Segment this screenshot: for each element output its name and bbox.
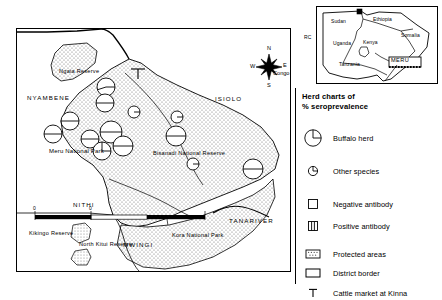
inset-top-marker [357, 9, 362, 14]
buffalo-herd-pie-icon [300, 128, 326, 148]
herd-chart-h2[interactable] [96, 94, 114, 112]
legend-label-protected-areas: Protected areas [333, 250, 386, 259]
district-label-tanariver: TANARIVER [229, 217, 274, 224]
inset-edge-label-rc: RC [304, 34, 311, 40]
inset-country-uganda: Uganda [333, 40, 351, 46]
herd-chart-h9[interactable] [166, 126, 186, 146]
main-map-panel: NYAMBENE ISIOLO NITHI MWINGI TANARIVER N… [16, 28, 291, 272]
herd-chart-h12[interactable] [187, 158, 199, 170]
inset-country-somalia: Somalia [401, 32, 420, 38]
negative-antibody-square-icon [300, 197, 326, 211]
district-label-nyambene: NYAMBENE [27, 94, 70, 101]
legend-label-cattle-market: Cattle market at Kinna [333, 289, 407, 298]
legend-label-district-border: District border [333, 269, 380, 278]
inset-country-ethiopia: Ethiopia [373, 16, 392, 22]
ngaia-reserve-polygon [51, 43, 97, 81]
kikingo-reserve-polygon [71, 223, 91, 243]
district-border-north [101, 29, 129, 59]
legend-title-line1: Herd charts of [302, 92, 440, 102]
legend-item-positive-antibody[interactable]: Positive antibody [300, 219, 440, 233]
legend-item-protected-areas[interactable]: Protected areas [300, 248, 440, 260]
legend-label-positive-antibody: Positive antibody [333, 222, 390, 231]
legend-item-district-border[interactable]: District border [300, 267, 440, 279]
positive-antibody-square-icon [300, 219, 326, 233]
district-label-isiolo: ISIOLO [215, 95, 242, 102]
herd-chart-h1[interactable] [97, 78, 115, 96]
herd-chart-h13[interactable] [243, 159, 263, 179]
place-label-bisanadi-national-reserve: Bisanadi National Reserve [153, 150, 225, 156]
other-species-pie-icon [300, 161, 326, 181]
place-label-north-kitui-reserve: North Kitui Reserve [79, 241, 132, 247]
legend-item-buffalo-herd[interactable]: Buffalo herd [300, 128, 440, 148]
protected-areas-square-icon [300, 248, 326, 260]
place-label-kikingo-reserve: Kikingo Reserve [29, 230, 73, 236]
district-border-north-west [17, 29, 101, 32]
legend-item-negative-antibody[interactable]: Negative antibody [300, 197, 440, 211]
legend-item-cattle-market[interactable]: Cattle market at Kinna [300, 286, 440, 300]
kikingo-reserve-polygon-2 [71, 249, 91, 265]
legend-item-other-species[interactable]: Other species [300, 161, 440, 181]
herd-chart-h3[interactable] [61, 112, 79, 130]
compass-rose [256, 54, 282, 80]
place-label-kora-national-park: Kora National Park [172, 232, 223, 238]
legend-label-other-species: Other species [333, 167, 379, 176]
inset-country-sudan: Sudan [331, 18, 346, 24]
herd-chart-h10[interactable] [171, 111, 183, 123]
compass-label-congo: Congo [273, 70, 289, 76]
compass-label-west: W [250, 63, 255, 69]
scale-tick-left: 0 [33, 205, 36, 211]
cattle-market-tee-icon [300, 286, 326, 300]
herd-chart-h11[interactable] [128, 106, 140, 118]
herd-chart-h8[interactable] [113, 136, 133, 156]
place-label-meru-national-park: Meru National Park [49, 148, 104, 154]
district-border-square-icon [300, 267, 326, 279]
compass-label-south: S [267, 82, 271, 88]
legend-divider [295, 88, 296, 284]
scale-tick-mid: 0 [89, 205, 92, 211]
inset-country-tanzania: Tanzania [339, 61, 360, 67]
herd-chart-h4[interactable] [44, 125, 62, 143]
legend-label-buffalo-herd: Buffalo herd [333, 134, 373, 143]
inset-map-panel: Sudan Ethiopia Somalia Uganda Kenya Tanz… [316, 6, 438, 84]
legend-title-line2: % seroprevalence [302, 102, 440, 112]
compass-label-east: E [283, 62, 287, 68]
legend-label-negative-antibody: Negative antibody [333, 200, 393, 209]
inset-country-kenya: Kenya [363, 39, 378, 45]
inset-meru-label: MERU [391, 57, 409, 63]
place-label-ngaia-reserve: Ngaia Reserve [59, 68, 99, 74]
compass-label-north: N [267, 45, 271, 51]
legend-panel: Herd charts of % seroprevalence Buffalo … [300, 92, 440, 282]
